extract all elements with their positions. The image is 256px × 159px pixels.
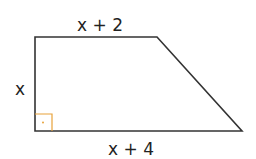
trapezoid-diagram: x + 2 x x + 4 (0, 0, 256, 159)
right-angle-marker (35, 114, 52, 131)
left-side-label: x (15, 79, 25, 99)
top-side-label: x + 2 (77, 15, 123, 35)
trapezoid-shape (35, 37, 242, 131)
bottom-side-label: x + 4 (108, 139, 154, 159)
